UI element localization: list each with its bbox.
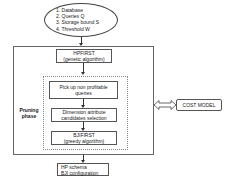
double-arrow-icon — [153, 99, 177, 111]
hpfirst-box: HPFIRST (genetic algorithm) — [56, 49, 112, 63]
hpfirst-subtitle: (genetic algorithm) — [63, 56, 104, 62]
cost-model-box: COST MODEL — [176, 99, 222, 111]
bjifirst-box: BJIFIRST (greedy algorithm) — [51, 131, 117, 145]
dimension-attribute-box: Dimension attribute candidates selection — [51, 108, 117, 122]
output-box: HP schema BJI configuration — [57, 163, 109, 176]
inputs-list: 1. Database 2. Queries Q 3. Storage boun… — [56, 7, 99, 32]
pick-up-queries-box: Pick up non profitable queries — [49, 81, 118, 99]
input-item: 3. Storage bound S — [56, 19, 99, 25]
input-item: 4. Threshold W — [56, 26, 99, 32]
pruning-phase-label: Pruning phase — [14, 107, 44, 119]
arrowhead-icon — [81, 72, 85, 75]
